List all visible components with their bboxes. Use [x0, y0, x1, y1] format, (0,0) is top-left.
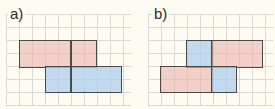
figure-b-pink-top [211, 40, 263, 68]
figure-a-pink-rect [19, 40, 97, 68]
figure-b-blue-top [186, 40, 213, 68]
figure-a-blue-rect [45, 66, 122, 93]
figure-b-label: b) [152, 6, 169, 22]
figure-a-divider [70, 40, 72, 93]
figure-b-pink-bottom [160, 66, 213, 93]
figure-b-blue-bottom [211, 66, 237, 93]
figure-a-label: a) [8, 6, 25, 22]
